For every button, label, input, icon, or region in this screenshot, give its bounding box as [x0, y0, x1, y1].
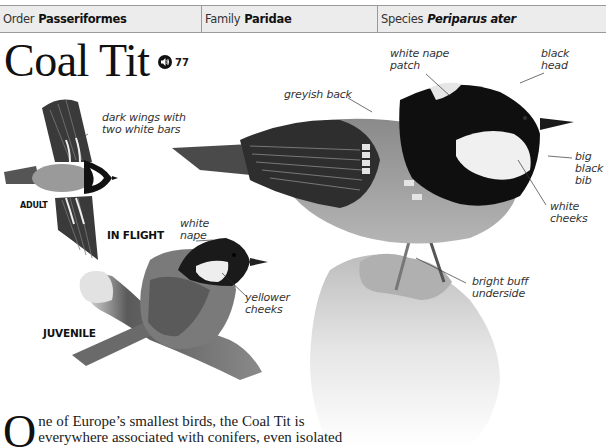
- age-label-adult: ADULT: [20, 201, 48, 210]
- body-paragraph: O ne of Europe’s smallest birds, the Coa…: [3, 413, 343, 447]
- family-value: Paridae: [244, 12, 291, 26]
- annotation-line: underside: [472, 288, 528, 300]
- page-title: Coal Tit: [4, 38, 150, 84]
- body-line: everywhere associated with conifers, eve…: [3, 429, 343, 445]
- section-heading-in-flight: IN FLIGHT: [107, 229, 164, 241]
- speaker-icon[interactable]: [158, 55, 172, 69]
- audio-track-number: 77: [175, 57, 189, 68]
- species-label: Species: [381, 12, 423, 26]
- annotation-white-nape-patch: white nape patch: [390, 48, 449, 72]
- taxonomy-bar: Order Passeriformes Family Paridae Speci…: [0, 5, 606, 33]
- family-label: Family: [205, 12, 240, 26]
- body-line: ne of Europe’s smallest birds, the Coal …: [3, 413, 343, 429]
- taxonomy-species: Species Periparus ater: [378, 6, 606, 32]
- annotation-bright-buff-underside: bright buff underside: [472, 276, 528, 300]
- audio-reference[interactable]: 77: [158, 55, 189, 69]
- annotation-line: nape: [180, 230, 209, 242]
- drop-cap: O: [3, 414, 36, 447]
- order-label: Order: [3, 12, 34, 26]
- annotation-line: greyish back: [284, 89, 352, 101]
- flight-bird-illustration: [4, 100, 118, 260]
- annotation-line: patch: [390, 60, 449, 72]
- annotation-line: head: [541, 60, 569, 72]
- taxonomy-order: Order Passeriformes: [0, 6, 202, 32]
- annotation-flight-wings: dark wings with two white bars: [102, 112, 186, 136]
- annotation-black-head: black head: [541, 48, 569, 72]
- annotation-white-cheeks: white cheeks: [550, 201, 587, 225]
- annotation-line: cheeks: [550, 213, 587, 225]
- order-value: Passeriformes: [38, 12, 126, 26]
- annotation-juvenile-nape: white nape: [180, 218, 209, 242]
- adult-bird-illustration: [172, 73, 574, 447]
- annotation-greyish-back: greyish back: [284, 89, 352, 101]
- annotation-line: bib: [575, 175, 603, 187]
- annotation-big-black-bib: big black bib: [575, 151, 603, 187]
- species-value: Periparus ater: [427, 12, 516, 26]
- section-heading-juvenile: JUVENILE: [43, 327, 96, 339]
- annotation-juvenile-cheeks: yellower cheeks: [245, 292, 290, 316]
- annotation-line: cheeks: [245, 304, 290, 316]
- juvenile-bird-illustration: [72, 238, 268, 380]
- taxonomy-family: Family Paridae: [202, 6, 378, 32]
- annotation-line: two white bars: [102, 124, 186, 136]
